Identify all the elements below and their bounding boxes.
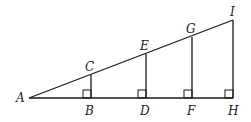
geometry-diagram: A B C D E F G H I [0, 0, 251, 122]
label-A: A [15, 91, 25, 105]
label-H: H [227, 104, 239, 118]
label-E: E [139, 39, 149, 53]
label-G: G [186, 22, 196, 36]
label-I: I [229, 5, 235, 19]
label-F: F [186, 104, 196, 118]
label-C: C [85, 60, 94, 74]
label-B: B [84, 104, 94, 118]
right-angle-marker-F [184, 90, 192, 98]
label-D: D [139, 104, 150, 118]
right-angle-marker-H [225, 90, 233, 98]
segment-AI [29, 20, 233, 98]
right-angle-marker-B [83, 90, 91, 98]
right-angle-marker-D [138, 90, 146, 98]
